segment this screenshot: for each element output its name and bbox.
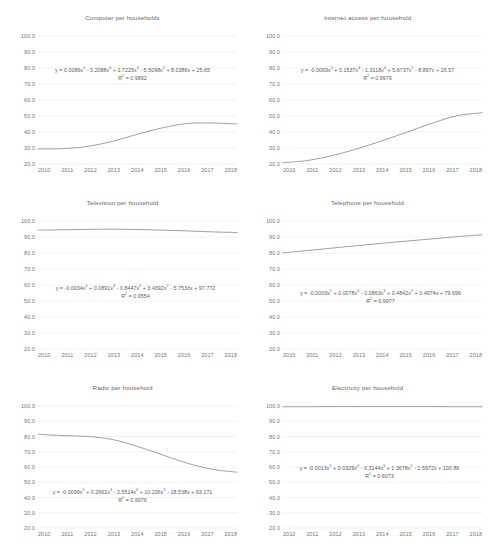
x-tick-label: 2010 <box>38 167 50 173</box>
trendline-r2: R2 = 0.9977 <box>283 297 478 305</box>
y-tick-label: 90.0 <box>24 418 35 424</box>
x-tick-label: 2016 <box>178 531 190 537</box>
y-tick-label: 40.0 <box>269 314 280 320</box>
x-axis-labels: 201020112012201320142015201620172018 <box>38 167 237 173</box>
x-tick-label: 2016 <box>423 167 435 173</box>
x-tick-label: 2017 <box>446 167 458 173</box>
x-tick-label: 2012 <box>84 531 96 537</box>
trendline-r2: R2 = 0.9979 <box>275 74 480 82</box>
plot-area: 100.090.080.070.060.050.040.030.020.0 20… <box>38 36 237 164</box>
y-tick-label: 50.0 <box>24 479 35 485</box>
y-tick-label: 60.0 <box>24 282 35 288</box>
series-line <box>283 113 482 163</box>
chart-title: Radio per household <box>0 384 245 391</box>
x-tick-label: 2012 <box>329 352 341 358</box>
chart-panel-telephone: Telephone per household 100.090.080.070.… <box>245 185 490 370</box>
chart-title: Electricity per household <box>245 384 490 391</box>
x-axis-labels: 201020112012201320142015201620172018 <box>283 531 482 537</box>
y-tick-label: 20.0 <box>24 525 35 531</box>
gridlines <box>283 36 482 164</box>
x-tick-label: 2010 <box>283 167 295 173</box>
y-tick-label: 100.0 <box>266 33 280 39</box>
trendline-equation: y = 0.0086x5 - 0.2088x4 + 1.7225x3 - 5.5… <box>55 67 210 73</box>
y-tick-label: 70.0 <box>24 266 35 272</box>
plot-area: 100.090.080.070.060.050.040.030.020.0 20… <box>283 36 482 164</box>
trendline-annotation: y = -0.0034x5 + 0.0891x4 - 0.8447x3 + 3.… <box>40 284 231 300</box>
x-tick-label: 2013 <box>108 167 120 173</box>
chart-panel-internet: Internet access per household 100.090.08… <box>245 0 490 185</box>
gridlines <box>38 406 237 528</box>
y-tick-label: 60.0 <box>24 464 35 470</box>
x-tick-label: 2017 <box>201 531 213 537</box>
trendline-annotation: y = -0.0069x5 + 0.1537x4 - 1.3118x3 + 5.… <box>275 66 480 82</box>
chart-panel-electricity: Electricity per household 100.090.080.07… <box>245 370 490 547</box>
x-tick-label: 2014 <box>131 167 143 173</box>
x-tick-label: 2015 <box>399 352 411 358</box>
x-tick-label: 2011 <box>306 352 318 358</box>
x-tick-label: 2014 <box>376 352 388 358</box>
x-tick-label: 2013 <box>353 352 365 358</box>
chart-panel-radio: Radio per household 100.090.080.070.060.… <box>0 370 245 547</box>
x-tick-label: 2016 <box>178 352 190 358</box>
y-tick-label: 90.0 <box>24 234 35 240</box>
x-tick-label: 2015 <box>399 167 411 173</box>
y-tick-label: 70.0 <box>24 449 35 455</box>
x-tick-label: 2015 <box>154 531 166 537</box>
series-line <box>38 123 237 149</box>
x-tick-label: 2013 <box>353 531 365 537</box>
x-axis-labels: 201020112012201320142015201620172018 <box>38 352 237 358</box>
x-tick-label: 2010 <box>283 352 295 358</box>
trendline-r2: R2 = 0.9976 <box>30 496 235 504</box>
x-tick-label: 2018 <box>470 167 482 173</box>
chart-title: Internet access per household <box>245 14 490 21</box>
x-tick-label: 2017 <box>446 531 458 537</box>
y-tick-label: 60.0 <box>269 282 280 288</box>
chart-grid: Computer per households 100.090.080.070.… <box>0 0 490 547</box>
x-tick-label: 2018 <box>225 167 237 173</box>
x-tick-label: 2017 <box>201 167 213 173</box>
y-tick-label: 30.0 <box>24 145 35 151</box>
x-tick-label: 2011 <box>61 531 73 537</box>
plot-svg <box>38 36 237 164</box>
y-tick-label: 60.0 <box>24 97 35 103</box>
y-tick-label: 100.0 <box>21 403 35 409</box>
x-axis-labels: 201020112012201320142015201620172018 <box>283 352 482 358</box>
y-tick-label: 30.0 <box>269 330 280 336</box>
trendline-r2: R2 = 0.9892 <box>30 74 235 82</box>
y-tick-label: 70.0 <box>269 449 280 455</box>
y-tick-label: 50.0 <box>24 113 35 119</box>
trendline-equation: y = -0.0003x5 + 0.0078x4 - 0.0863x3 + 0.… <box>300 290 461 296</box>
trendline-annotation: y = -0.0013x5 + 0.0329x4 - 0.3144x3 + 1.… <box>279 464 480 480</box>
x-tick-label: 2011 <box>306 167 318 173</box>
plot-area: 100.090.080.070.060.050.040.030.020.0 20… <box>38 406 237 528</box>
x-tick-label: 2013 <box>108 531 120 537</box>
y-tick-label: 50.0 <box>24 298 35 304</box>
plot-svg <box>283 36 482 164</box>
y-tick-label: 40.0 <box>269 129 280 135</box>
y-tick-label: 40.0 <box>24 129 35 135</box>
series-line <box>283 235 482 253</box>
y-tick-label: 80.0 <box>269 250 280 256</box>
x-tick-label: 2018 <box>470 352 482 358</box>
x-tick-label: 2015 <box>399 531 411 537</box>
x-tick-label: 2012 <box>84 167 96 173</box>
x-tick-label: 2010 <box>38 352 50 358</box>
y-tick-label: 40.0 <box>24 314 35 320</box>
y-tick-label: 20.0 <box>269 525 280 531</box>
x-tick-label: 2016 <box>178 167 190 173</box>
chart-panel-television: Television per household 100.090.080.070… <box>0 185 245 370</box>
x-tick-label: 2014 <box>131 352 143 358</box>
y-tick-label: 100.0 <box>266 218 280 224</box>
y-tick-label: 60.0 <box>269 97 280 103</box>
gridlines <box>283 221 482 349</box>
x-tick-label: 2014 <box>376 531 388 537</box>
y-tick-label: 20.0 <box>24 346 35 352</box>
x-tick-label: 2013 <box>108 352 120 358</box>
x-tick-label: 2015 <box>154 167 166 173</box>
y-tick-label: 50.0 <box>269 298 280 304</box>
y-tick-label: 90.0 <box>24 49 35 55</box>
plot-svg <box>38 406 237 528</box>
y-tick-label: 80.0 <box>24 250 35 256</box>
x-tick-label: 2018 <box>225 352 237 358</box>
x-tick-label: 2010 <box>283 531 295 537</box>
